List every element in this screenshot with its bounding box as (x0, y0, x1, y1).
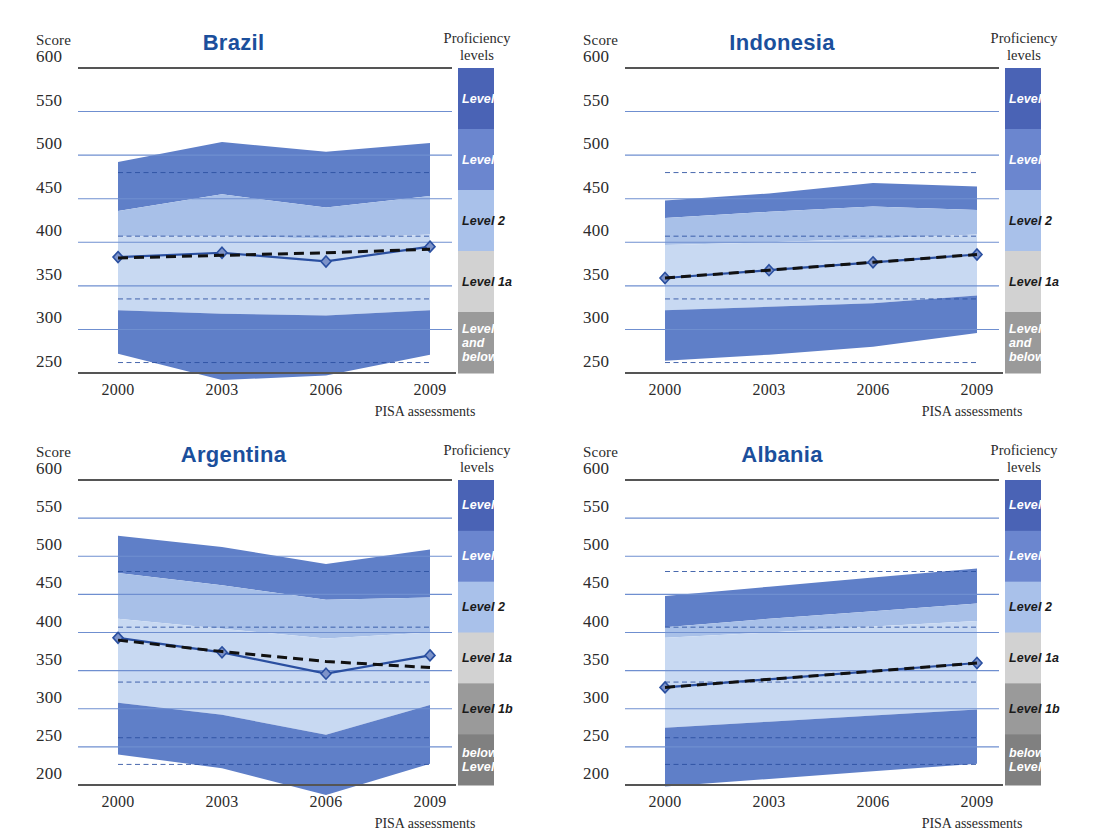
y-axis-tick: 250 (583, 352, 609, 372)
x-axis-tick: 2003 (752, 793, 785, 811)
legend-band-label: belowLevel 1b (462, 746, 558, 774)
panel-brazil: Score60055050045040035030025020002003200… (0, 0, 547, 412)
panel-albania: Score60055050045040035030025020020002003… (547, 412, 1097, 825)
y-axis-tick: 400 (36, 612, 62, 632)
chart-title: Albania (607, 442, 957, 468)
y-axis-tick: 500 (36, 134, 62, 154)
y-axis-tick: 500 (583, 134, 609, 154)
legend-band-label: Level 3 (1009, 549, 1097, 563)
proficiency-title-line2: levels (1007, 47, 1041, 63)
y-axis-tick: 450 (583, 178, 609, 198)
y-axis-tick: 450 (583, 573, 609, 593)
legend-band-label: Level 1a (1009, 275, 1097, 289)
legend-band-label: Level 4 (462, 498, 558, 512)
y-axis-tick: 250 (36, 726, 62, 746)
y-axis-tick: 600 (36, 459, 62, 479)
x-axis-tick: 2003 (752, 381, 785, 399)
y-axis-tick: 400 (36, 221, 62, 241)
y-axis-tick: 350 (36, 650, 62, 670)
legend-band-label: Level 4 (1009, 498, 1097, 512)
y-axis-tick: 350 (583, 650, 609, 670)
legend-band-label: Level 1a (462, 275, 558, 289)
y-axis-tick: 300 (583, 688, 609, 708)
y-axis-tick: 200 (583, 764, 609, 784)
x-axis-tick: 2003 (205, 381, 238, 399)
y-axis-tick: 400 (583, 612, 609, 632)
proficiency-levels-title: Proficiencylevels (973, 30, 1075, 63)
x-axis-title: PISA assessments (375, 816, 476, 832)
legend-band-label: Level 1a (462, 651, 558, 665)
legend-band-label: Level 3 (462, 153, 558, 167)
x-axis-tick: 2006 (309, 381, 342, 399)
proficiency-title-line1: Proficiency (991, 442, 1058, 458)
x-axis-tick: 2003 (205, 793, 238, 811)
proficiency-title-line2: levels (460, 459, 494, 475)
y-axis-tick: 300 (583, 308, 609, 328)
y-axis-tick: 350 (583, 265, 609, 285)
legend-band-label: Level 1bandbelow (1009, 322, 1097, 364)
legend-band-label: belowLevel 1b (1009, 746, 1097, 774)
x-axis-tick: 2009 (960, 793, 993, 811)
x-axis-tick: 2000 (648, 793, 681, 811)
y-axis-tick: 550 (583, 91, 609, 111)
y-axis-tick: 250 (36, 352, 62, 372)
proficiency-title-line1: Proficiency (444, 442, 511, 458)
x-axis-tick: 2006 (309, 793, 342, 811)
y-axis-tick: 550 (36, 497, 62, 517)
y-axis-tick: 600 (583, 459, 609, 479)
proficiency-levels-title: Proficiencylevels (426, 30, 528, 63)
proficiency-title-line2: levels (460, 47, 494, 63)
x-axis-tick: 2009 (960, 381, 993, 399)
chart-title: Argentina (60, 442, 407, 468)
y-axis-tick: 600 (36, 47, 62, 67)
y-axis-tick: 200 (36, 764, 62, 784)
proficiency-title-line1: Proficiency (991, 30, 1058, 46)
y-axis-tick: 550 (36, 91, 62, 111)
proficiency-title-line1: Proficiency (444, 30, 511, 46)
proficiency-levels-title: Proficiencylevels (973, 442, 1075, 475)
y-axis-tick: 500 (36, 535, 62, 555)
y-axis-tick: 300 (36, 308, 62, 328)
x-axis-tick: 2000 (101, 793, 134, 811)
legend-band-label: Level 2 (1009, 600, 1097, 614)
proficiency-levels-title: Proficiencylevels (426, 442, 528, 475)
y-axis-tick: 450 (36, 573, 62, 593)
x-axis-tick: 2006 (856, 381, 889, 399)
y-axis-tick: 600 (583, 47, 609, 67)
legend-band-label: Level 4 (462, 92, 558, 106)
legend-band-label: Level 1bandbelow (462, 322, 558, 364)
legend-band-label: Level 4 (1009, 92, 1097, 106)
legend-band-label: Level 1b (1009, 702, 1097, 716)
x-axis-tick: 2006 (856, 793, 889, 811)
x-axis-title: PISA assessments (922, 816, 1023, 832)
y-axis-tick: 500 (583, 535, 609, 555)
panel-indonesia: Score60055050045040035030025020002003200… (547, 0, 1097, 412)
x-axis-tick: 2009 (413, 793, 446, 811)
y-axis-tick: 450 (36, 178, 62, 198)
legend-band-label: Level 1a (1009, 651, 1097, 665)
y-axis-tick: 400 (583, 221, 609, 241)
chart-title: Indonesia (607, 30, 957, 56)
x-axis-tick: 2009 (413, 381, 446, 399)
legend-band-label: Level 2 (462, 600, 558, 614)
y-axis-tick: 550 (583, 497, 609, 517)
legend-band-label: Level 3 (1009, 153, 1097, 167)
proficiency-title-line2: levels (1007, 459, 1041, 475)
legend-band-label: Level 2 (462, 214, 558, 228)
x-axis-tick: 2000 (101, 381, 134, 399)
x-axis-tick: 2000 (648, 381, 681, 399)
panel-argentina: Score60055050045040035030025020020002003… (0, 412, 547, 825)
y-axis-tick: 250 (583, 726, 609, 746)
y-axis-tick: 300 (36, 688, 62, 708)
legend-band-label: Level 1b (462, 702, 558, 716)
legend-band-label: Level 2 (1009, 214, 1097, 228)
y-axis-tick: 350 (36, 265, 62, 285)
legend-band-label: Level 3 (462, 549, 558, 563)
chart-title: Brazil (60, 30, 407, 56)
